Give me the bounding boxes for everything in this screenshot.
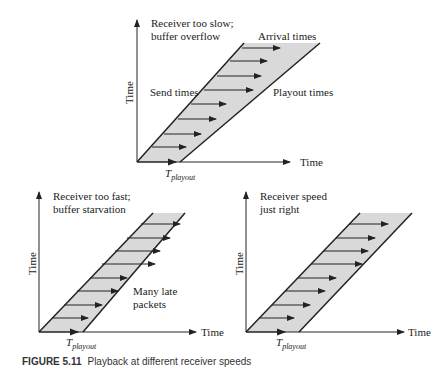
top-x-axis-label: Time (300, 156, 323, 168)
top-title-line1: Receiver too slow; (151, 17, 233, 29)
figure-caption: FIGURE 5.11Playback at different receive… (22, 356, 251, 367)
bl-y-axis-label: Time (26, 252, 38, 275)
br-x-axis-label: Time (408, 326, 431, 338)
figure-number: FIGURE 5.11 (22, 356, 81, 367)
bl-x-axis-label: Time (201, 326, 224, 338)
top-title-line2: buffer overflow (151, 30, 220, 42)
playout-times-label: Playout times (273, 86, 333, 98)
br-y-axis-label: Time (233, 252, 245, 275)
figure-caption-text: Playback at different receiver speeds (87, 356, 251, 367)
top-y-axis-label: Time (123, 81, 135, 104)
many-late-label: Many late (133, 285, 177, 297)
br-title-line1: Receiver speed (260, 190, 327, 202)
packets-label: packets (133, 298, 166, 310)
top-tplayout-label: Tplayout (165, 167, 195, 182)
send-times-label: Send times (150, 86, 199, 98)
bl-title-line2: buffer starvation (53, 203, 126, 215)
br-title-line2: just right (260, 203, 299, 215)
bl-tplayout-label: Tplayout (66, 336, 96, 351)
br-tplayout-label: Tplayout (276, 336, 306, 351)
bl-title-line1: Receiver too fast; (53, 190, 131, 202)
arrival-times-label: Arrival times (258, 30, 316, 42)
